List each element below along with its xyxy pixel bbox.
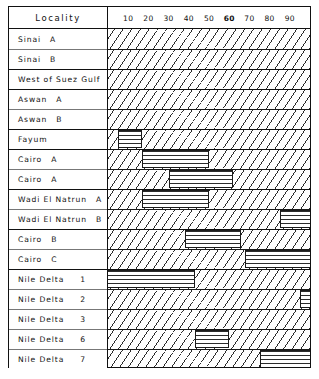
plot-column (108, 29, 310, 367)
locality-name: Nile Delta (18, 355, 64, 364)
table-row: Nile Delta2 (9, 289, 107, 309)
axis-tick-60: 60 (224, 13, 235, 22)
table-row: SinaiB (9, 49, 107, 69)
plot-row (108, 149, 310, 169)
locality-label: Nile Delta1 (9, 275, 86, 284)
axis-tick-50: 50 (204, 13, 214, 22)
row-separator (108, 249, 310, 250)
diagonal-hatch-band (108, 89, 310, 109)
group-separator (108, 229, 310, 230)
locality-label: Wadi El NatrunB (9, 215, 102, 224)
axis-tick-10: 10 (123, 13, 133, 22)
locality-name: West of Suez Gulf (18, 75, 100, 84)
plot-row (108, 209, 310, 229)
plot-row (108, 289, 310, 309)
range-bar (118, 130, 142, 148)
axis-tick-20: 20 (143, 13, 153, 22)
group-separator (108, 129, 310, 130)
plot-row (108, 69, 310, 89)
table-row: AswanA (9, 89, 107, 109)
row-separator (108, 329, 310, 330)
plot-row (108, 269, 310, 289)
locality-label: Nile Delta7 (9, 355, 86, 364)
locality-suffix: B (51, 235, 57, 244)
locality-suffix: B (96, 215, 102, 224)
locality-label: CairoA (9, 175, 57, 184)
group-separator (108, 69, 310, 70)
locality-label: SinaiA (9, 35, 56, 44)
diagonal-hatch-band (108, 49, 310, 69)
locality-number: 6 (80, 335, 86, 344)
group-separator (9, 69, 107, 70)
table-row: CairoB (9, 229, 107, 249)
axis-tick-30: 30 (164, 13, 174, 22)
group-separator (108, 189, 310, 190)
table-row: Nile Delta1 (9, 269, 107, 289)
diagonal-hatch-band (108, 309, 310, 329)
plot-row (108, 229, 310, 249)
locality-name: Cairo (18, 255, 42, 264)
row-separator (9, 49, 107, 50)
table-header: Locality 102030405060708090 (9, 7, 310, 29)
row-separator (108, 109, 310, 110)
locality-name: Nile Delta (18, 335, 64, 344)
row-separator (9, 249, 107, 250)
locality-suffix: B (50, 55, 56, 64)
table-row: CairoA (9, 149, 107, 169)
table-row: West of Suez Gulf (9, 69, 107, 89)
plot-row (108, 309, 310, 329)
row-separator (108, 169, 310, 170)
locality-label: SinaiB (9, 55, 56, 64)
axis-tick-40: 40 (184, 13, 194, 22)
diagonal-hatch-band (108, 149, 310, 169)
table-body: SinaiASinaiBWest of Suez GulfAswanAAswan… (9, 29, 310, 367)
locality-name: Sinai (18, 35, 41, 44)
locality-label: Nile Delta6 (9, 335, 86, 344)
diagonal-hatch-band (108, 189, 310, 209)
table-row: Wadi El NatrunA (9, 189, 107, 209)
row-separator (108, 209, 310, 210)
locality-suffix: A (96, 195, 102, 204)
row-separator (9, 289, 107, 290)
table-row: SinaiA (9, 29, 107, 49)
plot-row (108, 189, 310, 209)
group-separator (108, 269, 310, 270)
locality-number: 3 (80, 315, 86, 324)
locality-label: CairoB (9, 235, 57, 244)
range-bar (245, 250, 310, 268)
range-bar (142, 150, 209, 168)
row-separator (9, 209, 107, 210)
axis-tick-90: 90 (285, 13, 295, 22)
group-separator (9, 129, 107, 130)
table-row: AswanB (9, 109, 107, 129)
locality-suffix: B (56, 115, 62, 124)
locality-label: Wadi El NatrunA (9, 195, 102, 204)
row-separator (9, 169, 107, 170)
locality-suffix: A (50, 35, 56, 44)
group-separator (9, 269, 107, 270)
plot-row (108, 49, 310, 69)
locality-name: Wadi El Natrun (18, 215, 87, 224)
row-separator (9, 109, 107, 110)
plot-row (108, 129, 310, 149)
group-separator (108, 89, 310, 90)
locality-label: CairoC (9, 255, 57, 264)
row-separator (9, 349, 107, 350)
range-bar (185, 230, 242, 248)
locality-name: Wadi El Natrun (18, 195, 87, 204)
locality-name: Nile Delta (18, 315, 64, 324)
locality-label: West of Suez Gulf (9, 75, 100, 84)
locality-number: 2 (80, 295, 86, 304)
locality-name: Cairo (18, 175, 42, 184)
locality-name: Fayum (18, 135, 48, 144)
table-row: Nile Delta3 (9, 309, 107, 329)
locality-label: AswanA (9, 95, 62, 104)
group-separator (9, 189, 107, 190)
locality-suffix: C (51, 255, 57, 264)
locality-suffix: A (56, 95, 62, 104)
table-row: CairoA (9, 169, 107, 189)
locality-number: 7 (80, 355, 86, 364)
locality-name: Cairo (18, 235, 42, 244)
plot-row (108, 329, 310, 349)
table-row: CairoC (9, 249, 107, 269)
